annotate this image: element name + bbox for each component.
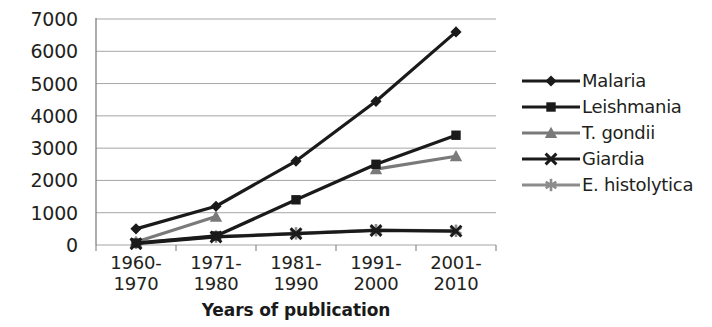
legend-label: Malaria xyxy=(582,72,646,90)
x-axis-tick-label-line: 2000 xyxy=(350,273,401,294)
triangle-marker xyxy=(210,210,222,221)
y-axis-tick-label: 3000 xyxy=(30,139,78,158)
line-chart-figure: 01000200030004000500060007000 1960-19701… xyxy=(0,0,712,327)
y-axis-tick-label: 2000 xyxy=(30,171,78,190)
x-axis-tick-labels: 1960-19701971-19801981-19901991-20002001… xyxy=(96,252,496,298)
x-axis-tick-label-line: 1971- xyxy=(190,252,241,273)
x-axis-tick-label-line: 2010 xyxy=(430,273,481,294)
gridlines xyxy=(96,19,496,245)
square-marker xyxy=(546,102,555,111)
legend-item[interactable]: Leishmania xyxy=(520,94,712,120)
x-axis-tick-label-line: 1970 xyxy=(110,273,161,294)
y-axis-tick-label: 6000 xyxy=(30,42,78,61)
y-axis-tick-labels: 01000200030004000500060007000 xyxy=(0,0,86,260)
diamond-marker xyxy=(130,223,141,234)
x-axis-tick-label-line: 1980 xyxy=(190,273,241,294)
plot-svg xyxy=(96,19,496,245)
x-axis-tick-marks xyxy=(96,245,496,251)
x-axis-tick-label: 1991-2000 xyxy=(350,252,401,294)
x-axis-tick-label: 1981-1990 xyxy=(270,252,321,294)
legend-marker xyxy=(520,70,582,92)
square-marker xyxy=(371,160,380,169)
legend-label: E. histolytica xyxy=(582,176,693,194)
legend-marker xyxy=(520,148,582,170)
legend-marker xyxy=(520,174,582,196)
y-axis-tick-label: 0 xyxy=(66,236,78,255)
diamond-marker xyxy=(545,75,556,86)
x-axis-tick-label-line: 1981- xyxy=(270,252,321,273)
legend-label: T. gondii xyxy=(582,124,655,142)
x-axis-tick-label: 2001-2010 xyxy=(430,252,481,294)
legend-marker xyxy=(520,122,582,144)
legend-label: Leishmania xyxy=(582,98,682,116)
data-series-group xyxy=(130,26,462,249)
chart-legend: MalariaLeishmaniaT. gondiiGiardiaE. hist… xyxy=(520,68,712,198)
legend-item[interactable]: Malaria xyxy=(520,68,712,94)
legend-marker xyxy=(520,96,582,118)
plot-area xyxy=(96,19,496,245)
y-axis-tick-label: 4000 xyxy=(30,106,78,125)
x-axis-tick-label: 1971-1980 xyxy=(190,252,241,294)
legend-item[interactable]: E. histolytica xyxy=(520,172,712,198)
square-marker xyxy=(451,131,460,140)
x-axis-tick-label: 1960-1970 xyxy=(110,252,161,294)
y-axis-tick-label: 1000 xyxy=(30,203,78,222)
x-axis-tick-label-line: 1960- xyxy=(110,252,161,273)
x-axis-tick-label-line: 1991- xyxy=(350,252,401,273)
legend-label: Giardia xyxy=(582,150,644,168)
x-axis-tick-label-line: 2001- xyxy=(430,252,481,273)
legend-item[interactable]: T. gondii xyxy=(520,120,712,146)
x-axis-tick-label-line: 1990 xyxy=(270,273,321,294)
series-line xyxy=(376,156,456,169)
y-axis-tick-label: 7000 xyxy=(30,10,78,29)
legend-item[interactable]: Giardia xyxy=(520,146,712,172)
x-axis-title: Years of publication xyxy=(96,300,496,320)
y-axis-tick-label: 5000 xyxy=(30,74,78,93)
square-marker xyxy=(291,195,300,204)
